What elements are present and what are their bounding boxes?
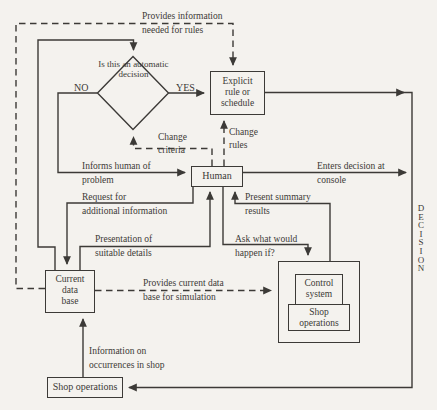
label-present-summary: Present summary results [245,190,311,218]
label-line: base for simulation [143,290,224,304]
label-line: Enters decision at [317,159,385,173]
diamond-line: decision [119,69,149,79]
node-label: Shop operations [48,378,122,396]
node-label: system [296,289,342,300]
human-box: Human [191,166,243,187]
label-provides-current: Provides current data base for simulatio… [143,276,224,304]
node-label: data [46,285,94,296]
label-line: Change [229,126,258,139]
label-line: Change [158,131,187,144]
label-provides-info: Provides information needed for rules [142,9,222,37]
label-line: Presentation of [95,232,152,246]
node-label: operations [289,318,349,329]
shop-operations-box: Shop operations [47,377,123,398]
node-label: Human [192,167,242,185]
label-line: Informs human of [82,159,151,173]
simulated-shop-operations-box: Shop operations [288,304,350,331]
label-line: results [245,204,311,218]
label-line: rules [229,139,258,152]
flowchart-diagram: Is this an automatic decision Explicit r… [0,0,437,410]
label-change-criteria: Change criteria [158,131,187,157]
label-line: additional information [82,204,167,218]
node-label: base [46,296,94,307]
label-yes: YES [176,82,195,93]
node-label: rule or [211,87,264,98]
node-label: Control [296,278,342,289]
label-informs-human: Informs human of problem [82,159,151,187]
label-line: Present summary [245,190,311,204]
node-label: Current [46,274,94,285]
label-line: Ask what would [235,232,297,246]
node-label: schedule [211,98,264,109]
label-line: console [317,173,385,187]
label-line: occurrences in shop [89,358,164,372]
label-line: Request for [82,190,167,204]
node-label: Shop [289,307,349,318]
label-change-rules: Change rules [229,126,258,152]
diamond-line: an [122,59,131,69]
label-line: Provides current data [143,276,224,290]
explicit-rule-box: Explicit rule or schedule [210,71,265,115]
label-line: Provides information [142,9,222,23]
current-data-base-box: Current data base [45,270,95,313]
diamond-line: this [107,59,120,69]
label-no: NO [74,82,88,93]
label-line: Information on [89,344,164,358]
label-ask-what-if: Ask what would happen if? [235,232,297,260]
label-information-occurrences: Information on occurrences in shop [89,344,164,372]
connector-lines [0,0,437,410]
control-system-box: Control system [295,274,343,305]
label-line: needed for rules [142,23,222,37]
label-line: criteria [158,144,187,157]
decision-diamond: Is this an automatic decision [98,59,169,79]
label-line: problem [82,173,151,187]
label-presentation-details: Presentation of suitable details [95,232,152,260]
node-label: Explicit [211,76,264,87]
label-line: happen if? [235,246,297,260]
label-decision-vertical: D E C I S I O N [416,204,426,273]
label-line: suitable details [95,246,152,260]
label-request-additional: Request for additional information [82,190,167,218]
diamond-line: automatic [133,59,169,69]
diamond-line: Is [98,59,105,69]
label-enters-decision: Enters decision at console [317,159,385,187]
